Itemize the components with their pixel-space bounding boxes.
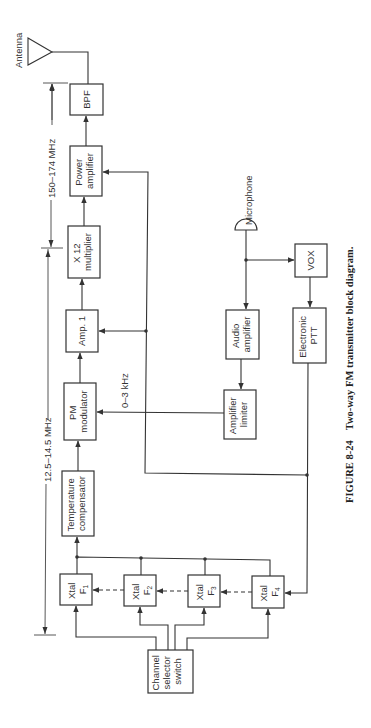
- vox-label: VOX: [305, 250, 316, 271]
- xtal-f4-sub: 4: [274, 587, 281, 591]
- rf-band-label: 150–174 MHz: [46, 139, 57, 198]
- temperature-compensator-block: Temperature compensator: [62, 471, 94, 536]
- xtal-f2-name: Xtal: [130, 584, 141, 600]
- temp-comp-label-1: Temperature: [65, 478, 76, 531]
- xtal-f2-sub: 2: [146, 585, 153, 589]
- multiplier-label-1: X 12: [71, 244, 82, 264]
- microphone-label: Microphone: [243, 175, 254, 225]
- limiter-to-pm-modulator-link: [97, 412, 224, 413]
- pm-mod-label-1: PM: [67, 406, 78, 420]
- figure-label: FIGURE 8-24: [344, 440, 355, 503]
- xtal-f2-block: Xtal F2: [124, 575, 156, 606]
- power-amp-label-2: amplifier: [84, 153, 95, 189]
- ptt-keying-bus: [99, 172, 309, 593]
- channel-selector-connections: [76, 606, 268, 650]
- x12-multiplier-block: X 12 multiplier: [68, 226, 100, 278]
- amp-limiter-label-1: Amplifier: [227, 397, 238, 434]
- bpf-block: BPF: [70, 84, 103, 115]
- xtal-output-bus: [75, 555, 270, 576]
- xtal-f3-sub: 3: [210, 586, 217, 590]
- power-amp-label-1: Power: [73, 159, 84, 186]
- amp1-label: Amp. 1: [76, 316, 87, 346]
- xtal-f4-block: Xtal F4: [252, 576, 284, 608]
- audio-amp-label-1: Audio: [230, 324, 241, 348]
- xtal-inhibit-links: [93, 590, 252, 592]
- channel-sel-label-1: Channel: [150, 655, 161, 690]
- svg-text:Amp. 1: Amp. 1: [76, 316, 87, 346]
- pm-modulator-block: PM modulator: [64, 383, 96, 440]
- xtal-f1-name: Xtal: [66, 583, 77, 599]
- svg-text:BPF: BPF: [81, 90, 92, 109]
- fm-transmitter-block-diagram: Antenna BPF Power amplifier X 12 multipl…: [0, 0, 371, 728]
- electronic-ptt-block: Electronic PTT: [293, 308, 326, 363]
- svg-text:Audio amplifier: Audio amplifier: [230, 317, 252, 353]
- amp-limiter-label-2: limiter: [238, 402, 249, 427]
- channel-sel-label-2: selector: [161, 656, 172, 689]
- xtal-f1-sub: 1: [82, 584, 89, 588]
- audio-band-label: 0–3 kHz: [119, 373, 130, 408]
- channel-sel-label-3: switch: [172, 658, 183, 684]
- figure-caption: FIGURE 8-24Two-way FM transmitter block …: [344, 246, 355, 503]
- svg-text:Power amplifier: Power amplifier: [73, 153, 95, 189]
- xtal-f3-block: Xtal F3: [188, 575, 220, 607]
- temp-comp-label-2: compensator: [76, 476, 87, 531]
- power-amplifier-block: Power amplifier: [70, 146, 102, 196]
- channel-selector-switch-block: Channel selector switch: [148, 650, 193, 693]
- ptt-label-1: Electronic: [297, 316, 308, 358]
- audio-amplifier-block: Audio amplifier: [226, 310, 259, 359]
- multiplier-label-2: multiplier: [82, 233, 93, 271]
- amp1-block: Amp. 1: [66, 310, 98, 352]
- antenna-icon: [28, 38, 88, 84]
- xtal-f4-name: Xtal: [258, 585, 269, 601]
- xtal-f3-name: Xtal: [194, 584, 205, 600]
- pm-mod-label-2: modulator: [78, 390, 89, 432]
- figure-title: Two-way FM transmitter block diagram.: [344, 246, 355, 430]
- ptt-label-2: PTT: [308, 326, 319, 344]
- svg-text:VOX: VOX: [305, 250, 316, 271]
- microphone-icon: [235, 219, 257, 309]
- amplifier-limiter-block: Amplifier limiter: [224, 390, 256, 439]
- bpf-label: BPF: [81, 90, 92, 109]
- vox-block: VOX: [295, 244, 327, 277]
- if-band-label: 12.5–14.5 MHz: [42, 417, 53, 482]
- audio-amp-label-2: amplifier: [241, 317, 252, 353]
- svg-text:Temperature compensator: Temperature compensator: [65, 476, 87, 532]
- xtal-f1-block: Xtal F1: [60, 574, 92, 605]
- antenna-label: Antenna: [13, 32, 24, 68]
